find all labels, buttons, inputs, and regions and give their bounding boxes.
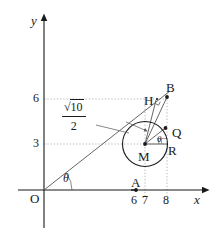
x-tick-8: 8 — [163, 194, 169, 206]
dot-q — [164, 126, 168, 130]
point-m-label: M — [138, 150, 150, 163]
radius-length-label: √10 2 — [62, 100, 86, 134]
axes — [18, 20, 203, 228]
dot-h — [156, 98, 158, 100]
angle-theta-circle-label: θ — [157, 135, 161, 144]
radius-denominator: 2 — [62, 118, 86, 134]
dot-b — [165, 95, 169, 99]
angle-theta-origin-label: θ — [63, 172, 69, 184]
y-axis-label: y — [31, 14, 37, 27]
origin-label: O — [30, 192, 39, 205]
x-axis-label: x — [194, 193, 200, 206]
right-angle-mark-r — [162, 139, 168, 145]
x-tick-7: 7 — [142, 194, 148, 206]
dot-m — [143, 142, 147, 146]
label-leader — [96, 125, 129, 133]
point-q-label: Q — [172, 126, 181, 139]
x-tick-6: 6 — [131, 194, 137, 206]
point-b-label: B — [166, 81, 175, 94]
point-h-label: H — [144, 94, 153, 107]
point-r-label: R — [168, 144, 177, 157]
y-tick-6: 6 — [33, 92, 39, 104]
radical-argument: 10 — [70, 99, 84, 114]
point-a-label: A — [131, 176, 140, 189]
geometry-figure: y x O 6 3 6 7 8 B H Q R M A θ θ √10 2 — [0, 0, 222, 234]
fraction-bar — [62, 116, 86, 117]
radius-callout — [96, 122, 147, 133]
y-tick-3: 3 — [33, 137, 39, 149]
radius-numerator: √10 — [62, 100, 86, 116]
